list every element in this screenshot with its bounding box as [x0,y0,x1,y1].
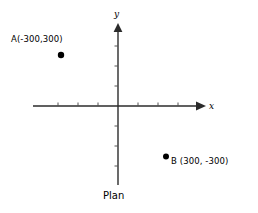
y-axis-arrowhead [114,23,123,32]
x-axis-arrowhead [196,102,206,111]
data-point-a-marker [58,52,64,58]
x-axis-label: x [209,102,214,111]
data-point-b-label: B (300, -300) [171,157,228,166]
data-point-b-marker [163,154,169,160]
figure-container: y x A(-300,300) B (300, -300) Plan [0,0,258,213]
figure-caption: Plan [103,191,124,201]
y-axis-label: y [114,10,119,19]
coordinate-plot [0,0,258,213]
data-point-a-label: A(-300,300) [11,35,63,44]
